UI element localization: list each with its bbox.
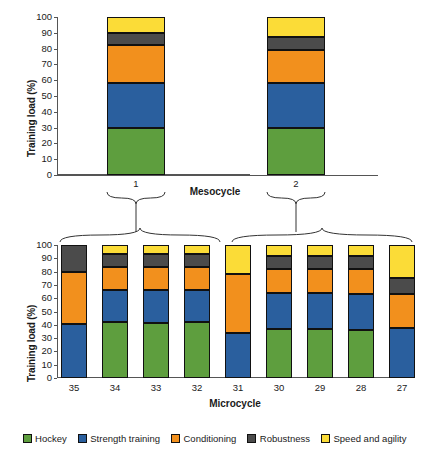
y-tick-label: 10: [30, 360, 52, 370]
y-tick-label: 70: [30, 280, 52, 290]
legend-color-swatch-icon: [247, 434, 256, 443]
x-tick-label: 30: [256, 383, 302, 393]
y-tick-label: 90: [30, 253, 52, 263]
y-tick-mark: [54, 365, 57, 366]
y-tick-label: 90: [30, 28, 52, 38]
stacked-bar: [267, 17, 325, 175]
y-tick-label: 50: [30, 91, 52, 101]
y-tick-mark: [54, 312, 57, 313]
y-tick-mark: [54, 325, 57, 326]
stacked-bar: [348, 245, 374, 378]
bar-segment: [61, 324, 87, 378]
bar-segment: [102, 267, 128, 290]
y-tick-label: 100: [30, 240, 52, 250]
bar-segment: [267, 37, 325, 50]
bar-segment: [389, 245, 415, 278]
legend-color-swatch-icon: [321, 434, 330, 443]
legend-label: Robustness: [260, 433, 310, 444]
y-tick-label: 20: [30, 138, 52, 148]
bar-segment: [107, 17, 165, 33]
y-tick-mark: [54, 49, 57, 50]
y-tick-label: 20: [30, 346, 52, 356]
bar-segment: [184, 245, 210, 254]
bar-segment: [143, 290, 169, 324]
bar-segment: [348, 245, 374, 256]
bar-segment: [307, 245, 333, 256]
mesocycle-x-axis-line: [57, 175, 375, 176]
x-tick-label: 31: [215, 383, 261, 393]
bar-segment: [307, 269, 333, 293]
y-tick-mark: [54, 64, 57, 65]
bar-segment: [267, 128, 325, 175]
bar-segment: [389, 278, 415, 294]
bar-segment: [267, 50, 325, 83]
legend-item: Robustness: [247, 433, 310, 444]
microcycle-x-axis-title: Microcycle: [170, 398, 300, 409]
stacked-bar: [102, 245, 128, 378]
bar-segment: [267, 17, 325, 37]
bar-segment: [225, 333, 251, 378]
bar-segment: [389, 328, 415, 378]
bar-segment: [307, 293, 333, 330]
y-tick-mark: [54, 258, 57, 259]
y-tick-mark: [54, 33, 57, 34]
bar-segment: [307, 256, 333, 269]
microcycle-group-2-brace: [232, 228, 412, 242]
y-tick-label: 70: [30, 59, 52, 69]
stacked-bar: [389, 245, 415, 378]
chart-legend: HockeyStrength trainingConditioningRobus…: [4, 430, 425, 446]
bar-segment: [266, 256, 292, 269]
bar-segment: [267, 83, 325, 127]
x-tick-label: 27: [379, 383, 425, 393]
bar-segment: [266, 245, 292, 256]
bar-segment: [184, 267, 210, 290]
bar-segment: [389, 294, 415, 328]
bar-segment: [143, 323, 169, 378]
legend-color-swatch-icon: [78, 434, 87, 443]
y-tick-mark: [54, 351, 57, 352]
stacked-bar: [266, 245, 292, 378]
legend-item: Strength training: [78, 433, 160, 444]
microcycle-y-axis-label: Training load (%): [26, 305, 37, 382]
figure-root: Training load (%) 0102030405060708090100…: [0, 0, 429, 454]
bar-segment: [225, 245, 251, 274]
legend-item: Hockey: [23, 433, 67, 444]
bar-segment: [102, 322, 128, 378]
y-tick-mark: [54, 298, 57, 299]
microcycle-group-1-brace: [60, 228, 220, 242]
y-tick-label: 60: [30, 75, 52, 85]
bar-segment: [266, 293, 292, 330]
bar-segment: [143, 245, 169, 254]
bar-segment: [102, 254, 128, 267]
x-tick-label: 32: [174, 383, 220, 393]
y-tick-label: 40: [30, 107, 52, 117]
stacked-bar: [184, 245, 210, 378]
y-tick-label: 100: [30, 12, 52, 22]
y-tick-label: 50: [30, 307, 52, 317]
y-tick-mark: [54, 143, 57, 144]
y-tick-label: 60: [30, 293, 52, 303]
bar-segment: [143, 254, 169, 267]
y-tick-mark: [54, 285, 57, 286]
y-tick-mark: [54, 17, 57, 18]
y-tick-mark: [54, 80, 57, 81]
legend-item: Speed and agility: [321, 433, 406, 444]
y-tick-label: 30: [30, 123, 52, 133]
legend-label: Conditioning: [184, 433, 237, 444]
y-tick-label: 0: [30, 170, 52, 180]
bar-segment: [61, 245, 87, 272]
bar-segment: [107, 45, 165, 83]
y-tick-label: 40: [30, 320, 52, 330]
x-tick-label: 34: [92, 383, 138, 393]
bar-segment: [348, 269, 374, 294]
bar-segment: [348, 256, 374, 269]
mesocycle-x-axis-title: Mesocycle: [150, 186, 280, 197]
y-tick-mark: [54, 245, 57, 246]
y-tick-mark: [54, 378, 57, 379]
stacked-bar: [225, 245, 251, 378]
stacked-bar: [61, 245, 87, 378]
legend-color-swatch-icon: [171, 434, 180, 443]
bar-segment: [307, 329, 333, 378]
y-tick-mark: [54, 96, 57, 97]
y-tick-label: 0: [30, 373, 52, 383]
